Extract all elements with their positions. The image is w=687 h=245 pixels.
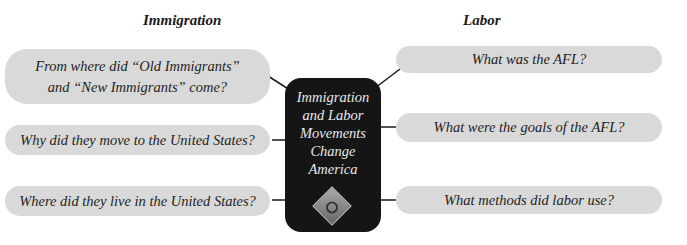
question-text: What were the goals of the AFL? (434, 117, 625, 138)
question-goals-afl: What were the goals of the AFL? (396, 113, 662, 142)
heading-labor: Labor (463, 12, 501, 29)
center-title-line: America (285, 160, 381, 178)
question-text-line2: and “New Immigrants” come? (48, 79, 227, 95)
question-where-live: Where did they live in the United States… (5, 186, 270, 216)
question-why-move: Why did they move to the United States? (5, 125, 270, 155)
question-text: What was the AFL? (472, 49, 587, 70)
question-text: Where did they live in the United States… (19, 191, 256, 212)
center-title-line: Immigration (285, 88, 381, 106)
central-topic-box: Immigration and Labor Movements Change A… (285, 78, 381, 232)
question-labor-methods: What methods did labor use? (396, 186, 662, 214)
question-old-new-immigrants: From where did “Old Immigrants”and “New … (5, 49, 270, 104)
center-title-line: and Labor (285, 106, 381, 124)
heading-immigration: Immigration (143, 12, 221, 29)
question-what-afl: What was the AFL? (396, 46, 662, 73)
center-title-line: Change (285, 142, 381, 160)
center-title-line: Movements (285, 124, 381, 142)
diamond-emblem-icon (312, 186, 352, 226)
question-text-line1: From where did “Old Immigrants” (35, 58, 239, 74)
question-text: Why did they move to the United States? (20, 130, 255, 151)
question-text: What methods did labor use? (444, 190, 614, 211)
